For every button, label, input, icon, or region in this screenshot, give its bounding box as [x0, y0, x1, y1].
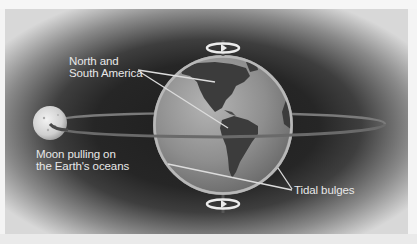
label-moon-line2: the Earth's oceans: [36, 160, 129, 172]
tides-diagram: [0, 0, 417, 244]
label-americas-line1: North and: [69, 55, 119, 67]
label-americas-line2: South America: [69, 67, 143, 79]
moon: [33, 106, 68, 140]
rotation-arrow-top-icon: [207, 40, 239, 56]
label-tidal-bulges: Tidal bulges: [294, 184, 354, 196]
label-moon-line1: Moon pulling on: [36, 148, 116, 160]
rotation-arrow-bottom-icon: [207, 195, 239, 213]
